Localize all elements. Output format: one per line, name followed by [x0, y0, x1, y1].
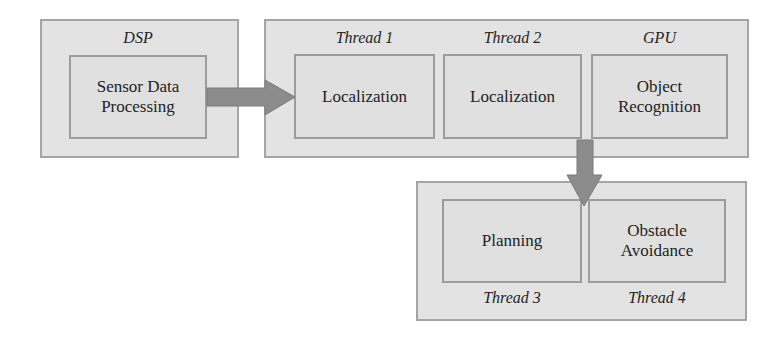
down-arrow-icon	[0, 0, 783, 339]
